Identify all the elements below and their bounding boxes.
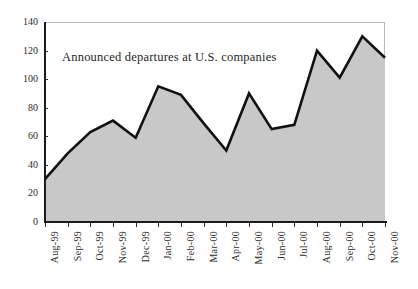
x-tick-label: Jul-00: [298, 231, 309, 258]
x-tick-mark: [136, 223, 137, 227]
x-tick-mark: [362, 223, 363, 227]
x-tick-label: Oct-99: [94, 231, 105, 261]
x-tick-mark: [113, 223, 114, 227]
x-tick-label: Oct-00: [366, 231, 377, 261]
x-tick-mark: [249, 223, 250, 227]
x-tick-label: May-00: [253, 231, 264, 264]
chart-title: Announced departures at U.S. companies: [62, 50, 277, 65]
x-tick-label: Dec-99: [140, 231, 151, 262]
x-tick-label: Aug-00: [321, 231, 332, 263]
chart-container: 020406080100120140 Aug-99Sep-99Oct-99Nov…: [0, 0, 418, 289]
x-tick-mark: [317, 223, 318, 227]
x-tick-mark: [204, 223, 205, 227]
x-tick-mark: [45, 223, 46, 227]
x-tick-mark: [158, 223, 159, 227]
x-tick-mark: [340, 223, 341, 227]
x-tick-mark: [226, 223, 227, 227]
x-tick-label: Jun-00: [276, 231, 287, 260]
x-tick-mark: [68, 223, 69, 227]
x-tick-label: Aug-99: [49, 231, 60, 263]
x-tick-label: Nov-99: [117, 231, 128, 263]
x-tick-label: Jan-00: [162, 231, 173, 259]
x-tick-mark: [294, 223, 295, 227]
x-tick-mark: [385, 223, 386, 227]
x-axis-line: [44, 221, 387, 223]
x-tick-mark: [272, 223, 273, 227]
x-tick-label: Nov-00: [389, 231, 400, 263]
y-axis-line: [44, 22, 46, 223]
x-tick-mark: [90, 223, 91, 227]
x-tick-label: Apr-00: [230, 231, 241, 261]
x-tick-mark: [181, 223, 182, 227]
x-tick-label: Sep-99: [72, 231, 83, 261]
x-tick-label: Sep-00: [344, 231, 355, 261]
x-tick-label: Mar-00: [208, 231, 219, 263]
x-tick-label: Feb-00: [185, 231, 196, 261]
